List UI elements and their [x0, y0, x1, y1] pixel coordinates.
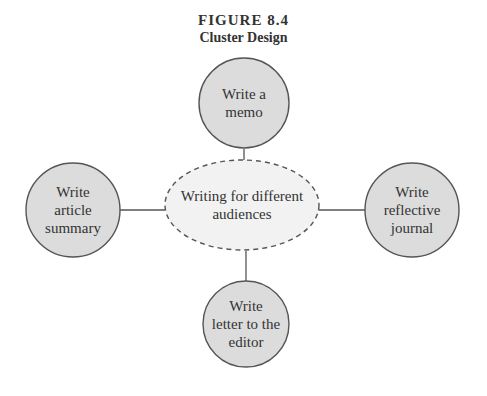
center-label: Writing for different audiences [165, 160, 319, 250]
node-top-label: Write a memo [199, 58, 289, 148]
center-label-line: audiences [212, 205, 271, 223]
node-label-line: Write [395, 183, 429, 201]
center-label-line: Writing for different [181, 187, 303, 205]
node-label-line: journal [391, 219, 434, 237]
node-label-line: Write a [222, 85, 266, 103]
node-label-line: Write [56, 183, 90, 201]
node-label-line: summary [45, 219, 101, 237]
node-label-line: editor [229, 333, 264, 351]
node-right-label: Write reflective journal [365, 163, 459, 257]
node-bottom-label: Write letter to the editor [200, 281, 292, 367]
node-label-line: Write [229, 297, 263, 315]
node-left-label: Write article summary [26, 163, 120, 257]
node-label-line: memo [225, 103, 263, 121]
node-label-line: reflective [384, 201, 441, 219]
node-label-line: article [54, 201, 91, 219]
node-label-line: letter to the [212, 315, 280, 333]
